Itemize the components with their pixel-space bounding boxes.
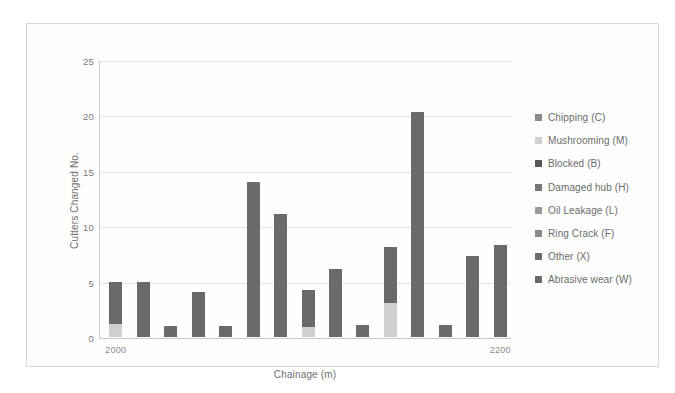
bar-column[interactable] [439, 325, 452, 337]
legend-swatch-icon [535, 207, 542, 214]
bar-segment[interactable] [466, 256, 479, 337]
y-tick-label: 20 [83, 111, 94, 122]
bar-segment[interactable] [384, 247, 397, 302]
y-tick-label: 25 [83, 56, 94, 67]
bar-segment[interactable] [274, 214, 287, 337]
legend-swatch-icon [535, 114, 542, 121]
legend-item[interactable]: Damaged hub (H) [535, 176, 675, 199]
legend-item[interactable]: Abrasive wear (W) [535, 268, 675, 291]
bar-column[interactable] [137, 282, 150, 337]
bar-segment[interactable] [109, 324, 122, 337]
legend-swatch-icon [535, 184, 542, 191]
y-tick-label: 5 [89, 277, 94, 288]
gridline [100, 227, 511, 228]
bar-segment[interactable] [302, 290, 315, 327]
bar-column[interactable] [494, 245, 507, 337]
plot-inner: 0510152025 20002200 [99, 61, 511, 339]
gridline [100, 283, 511, 284]
bar-segment[interactable] [356, 325, 369, 337]
gridline [100, 61, 511, 62]
x-axis-title-text: Chainage (m) [274, 369, 336, 380]
plot-area: 0510152025 20002200 [99, 61, 511, 339]
legend-item[interactable]: Chipping (C) [535, 106, 675, 129]
bar-column[interactable] [356, 325, 369, 337]
chart-legend: Chipping (C)Mushrooming (M)Blocked (B)Da… [535, 106, 675, 292]
bar-segment[interactable] [219, 326, 232, 337]
legend-item-label: Damaged hub (H) [548, 182, 629, 193]
legend-item[interactable]: Other (X) [535, 245, 675, 268]
legend-swatch-icon [535, 276, 542, 283]
bar-column[interactable] [302, 290, 315, 337]
y-tick-label: 15 [83, 166, 94, 177]
bar-segment[interactable] [109, 282, 122, 324]
bar-segment[interactable] [164, 326, 177, 337]
bar-column[interactable] [247, 182, 260, 337]
legend-swatch-icon [535, 253, 542, 260]
legend-swatch-icon [535, 230, 542, 237]
legend-item-label: Oil Leakage (L) [548, 205, 618, 216]
bar-column[interactable] [192, 292, 205, 337]
bar-column[interactable] [384, 247, 397, 337]
bar-segment[interactable] [192, 292, 205, 337]
bar-segment[interactable] [439, 325, 452, 337]
legend-item-label: Chipping (C) [548, 112, 605, 123]
bar-column[interactable] [164, 326, 177, 337]
bar-segment[interactable] [302, 327, 315, 337]
legend-item-label: Other (X) [548, 251, 590, 262]
chart-frame: Cutters Changed No. 0510152025 20002200 … [26, 23, 659, 367]
gridline [100, 116, 511, 117]
bar-segment[interactable] [247, 182, 260, 337]
x-tick-label: 2200 [490, 345, 511, 355]
gridline [100, 172, 511, 173]
y-axis-title: Cutters Changed No. [67, 61, 81, 339]
bar-segment[interactable] [494, 245, 507, 337]
y-tick-label: 10 [83, 222, 94, 233]
legend-item-label: Abrasive wear (W) [548, 274, 632, 285]
bar-segment[interactable] [411, 112, 424, 337]
legend-item[interactable]: Ring Crack (F) [535, 222, 675, 245]
bar-column[interactable] [466, 256, 479, 337]
legend-item-label: Mushrooming (M) [548, 135, 628, 146]
bar-column[interactable] [109, 282, 122, 337]
bar-segment[interactable] [137, 282, 150, 337]
legend-item[interactable]: Oil Leakage (L) [535, 199, 675, 222]
x-tick-label: 2000 [105, 345, 126, 355]
bar-column[interactable] [329, 269, 342, 337]
x-axis-title: Chainage (m) [99, 369, 511, 380]
bar-segment[interactable] [329, 269, 342, 337]
y-axis-title-text: Cutters Changed No. [69, 152, 80, 249]
legend-item[interactable]: Mushrooming (M) [535, 129, 675, 152]
bar-segment[interactable] [384, 303, 397, 337]
bar-column[interactable] [219, 326, 232, 337]
bar-column[interactable] [411, 112, 424, 337]
legend-item-label: Blocked (B) [548, 158, 601, 169]
legend-swatch-icon [535, 160, 542, 167]
y-tick-label: 0 [89, 333, 94, 344]
legend-item[interactable]: Blocked (B) [535, 152, 675, 175]
legend-swatch-icon [535, 137, 542, 144]
legend-item-label: Ring Crack (F) [548, 228, 614, 239]
bar-column[interactable] [274, 214, 287, 337]
